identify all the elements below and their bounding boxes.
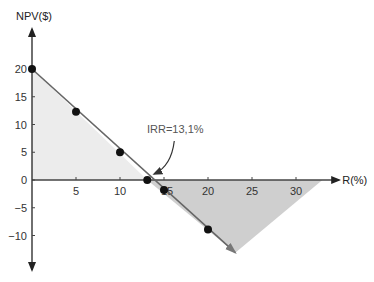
y-tick-label: 15 [15,91,27,103]
x-axis-title: R(%) [342,174,367,186]
shaded-regions [32,69,322,253]
y-tick-label: 20 [15,63,27,75]
y-axis-title: NPV($) [16,10,52,22]
x-tick-label: 30 [290,185,302,197]
npv-chart: 51015202530−10−505101520 NPV($) R(%) IRR… [0,0,374,282]
y-tick-label: 10 [15,119,27,131]
data-point [116,148,124,156]
data-point [160,186,168,194]
x-tick-label: 10 [114,185,126,197]
x-tick-label: 25 [246,185,258,197]
data-point [28,65,36,73]
data-point [72,108,80,116]
y-tick-label: 0 [21,174,27,186]
y-tick-label: −10 [8,230,27,242]
data-point [204,225,212,233]
y-tick-label: 5 [21,146,27,158]
x-tick-label: 5 [73,185,79,197]
y-tick-label: −5 [14,202,27,214]
x-tick-label: 20 [202,185,214,197]
irr-annotation: IRR=13,1% [147,123,204,174]
data-point [143,176,151,184]
irr-arrow [154,141,174,174]
irr-label: IRR=13,1% [147,123,204,135]
